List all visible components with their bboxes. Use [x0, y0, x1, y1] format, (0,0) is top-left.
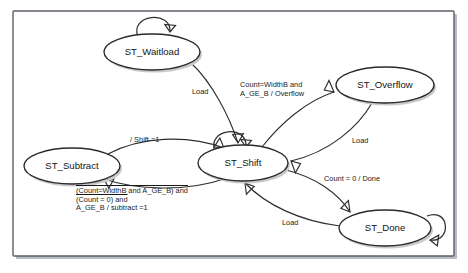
st-done-label: ST_Done [365, 222, 406, 233]
edge-label-subtract-to-shift: / Shift =1 [130, 136, 159, 145]
edge-label-shift-to-overflow: Count=WidthB and A_GE_B / Overflow [240, 81, 304, 98]
edge-label-line: A_GE_B / subtract =1 [76, 204, 188, 213]
st-waitload-label: ST_Waitload [125, 46, 180, 57]
edge-label-line: A_GE_B / Overflow [240, 90, 304, 99]
edge-label-shift-to-done: Count = 0 / Done [324, 175, 380, 184]
state-machine-diagram: ST_Waitload ST_Overflow ST_Shift ST_Subt… [0, 0, 468, 273]
edge-label-shift-to-subtract: (Count=WidthB and A_GE_B) and (Count = 0… [76, 187, 188, 213]
st-overflow-label: ST_Overflow [357, 79, 413, 90]
edge-label-waitload-to-shift: Load [192, 88, 208, 97]
edge-label-done-to-shift: Load [282, 219, 298, 228]
st-subtract-label: ST_Subtract [45, 160, 99, 171]
st-shift-label: ST_Shift [225, 157, 262, 168]
edge-label-overflow-to-shift: Load [352, 137, 368, 146]
fsm-canvas: ST_Waitload ST_Overflow ST_Shift ST_Subt… [0, 0, 468, 273]
